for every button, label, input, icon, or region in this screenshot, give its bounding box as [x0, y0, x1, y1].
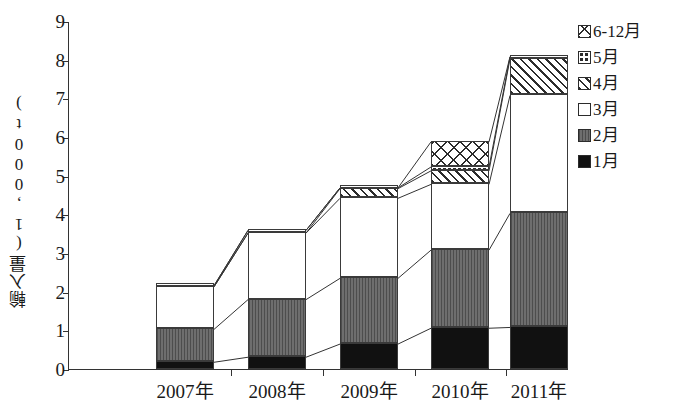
connector-line	[214, 230, 248, 285]
connector-line	[214, 230, 248, 285]
bar-segment-4月	[510, 58, 568, 95]
bar-2009年	[340, 187, 398, 369]
bar-2011年	[510, 56, 568, 369]
bar-segment-1月	[340, 343, 398, 369]
diagonal-swatch	[578, 77, 591, 90]
x-axis-line	[68, 369, 568, 370]
y-tick-label: 7	[29, 89, 65, 108]
connector-line	[489, 213, 510, 250]
connector-line	[306, 278, 340, 299]
connector-line	[489, 95, 510, 184]
y-axis-line	[68, 22, 69, 370]
series-connector-lines	[68, 22, 568, 370]
bar-segment-3月	[248, 232, 306, 299]
bar-segment-4月	[431, 170, 489, 184]
connector-line	[306, 189, 340, 233]
connector-line	[306, 188, 340, 231]
y-tick-label: 2	[29, 283, 65, 302]
connector-line	[398, 171, 431, 189]
bar-segment-3月	[156, 286, 214, 329]
bar-segment-5月	[340, 185, 398, 188]
connector-line	[306, 344, 340, 357]
legend-item-label: 4月	[593, 75, 619, 92]
bar-segment-2月	[510, 212, 568, 326]
bar-segment-5月	[248, 229, 306, 232]
connector-line	[306, 198, 340, 233]
cross-hatch-swatch	[578, 25, 591, 38]
bar-2007年	[156, 285, 214, 369]
x-tick-mark	[506, 370, 507, 376]
bar-2008年	[248, 229, 306, 369]
legend-item-4月: 4月	[578, 70, 682, 96]
y-tick-label: 3	[29, 244, 65, 263]
connector-line	[398, 142, 431, 188]
bar-segment-3月	[431, 183, 489, 249]
bar-segment-2月	[156, 328, 214, 361]
gray-swatch	[578, 129, 591, 142]
x-tick-label: 2011年	[484, 382, 594, 401]
connector-line	[489, 57, 510, 142]
y-tick-label: 0	[29, 360, 65, 379]
bar-segment-2月	[340, 277, 398, 343]
connector-line	[214, 357, 248, 362]
y-tick-label: 9	[29, 12, 65, 31]
plot-area: 0123456789 2007年2008年2009年2010年2011年	[68, 22, 568, 370]
connector-line	[214, 300, 248, 330]
bar-segment-2月	[248, 299, 306, 357]
chart-legend: 6-12月5月4月3月2月1月	[578, 18, 682, 174]
bar-segment-1月	[248, 356, 306, 369]
x-tick-mark	[415, 370, 416, 376]
bar-segment-5月	[431, 166, 489, 170]
connector-line	[489, 59, 510, 171]
connector-line	[306, 188, 340, 231]
y-tick-label: 1	[29, 321, 65, 340]
legend-item-2月: 2月	[578, 122, 682, 148]
connector-line	[489, 57, 510, 167]
bar-segment-5月	[156, 283, 214, 286]
legend-item-6-12月: 6-12月	[578, 18, 682, 44]
bar-segment-1月	[510, 326, 568, 369]
white-swatch	[578, 103, 591, 116]
legend-item-5月: 5月	[578, 44, 682, 70]
y-tick-label: 4	[29, 205, 65, 224]
connector-line	[214, 233, 248, 287]
dotted-swatch	[578, 51, 591, 64]
y-tick-label: 5	[29, 167, 65, 186]
legend-item-3月: 3月	[578, 96, 682, 122]
x-tick-mark	[323, 370, 324, 376]
connector-line	[398, 328, 431, 344]
bar-segment-3月	[510, 94, 568, 212]
connector-line	[398, 250, 431, 278]
legend-item-label: 6-12月	[593, 23, 641, 40]
bar-segment-1月	[156, 361, 214, 369]
connector-line	[214, 233, 248, 287]
bar-segment-1月	[431, 327, 489, 369]
bar-segment-2月	[431, 249, 489, 327]
chart-figure: 輸入量(1,000t) 0123456789 2007年2008年2009年20…	[0, 0, 686, 413]
legend-item-label: 5月	[593, 49, 619, 66]
bar-segment-5月	[510, 55, 568, 58]
black-swatch	[578, 155, 591, 168]
y-tick-label: 8	[29, 51, 65, 70]
bar-2010年	[431, 141, 489, 369]
legend-item-label: 2月	[593, 127, 619, 144]
bar-segment-4月	[340, 188, 398, 198]
legend-item-1月: 1月	[578, 148, 682, 174]
bar-segment-3月	[340, 197, 398, 277]
y-tick-label: 6	[29, 128, 65, 147]
bar-segment-6-12月	[431, 141, 489, 166]
legend-item-label: 1月	[593, 153, 619, 170]
connector-line	[398, 184, 431, 198]
x-tick-mark	[231, 370, 232, 376]
legend-item-label: 3月	[593, 101, 619, 118]
connector-line	[398, 167, 431, 188]
connector-line	[489, 327, 510, 328]
